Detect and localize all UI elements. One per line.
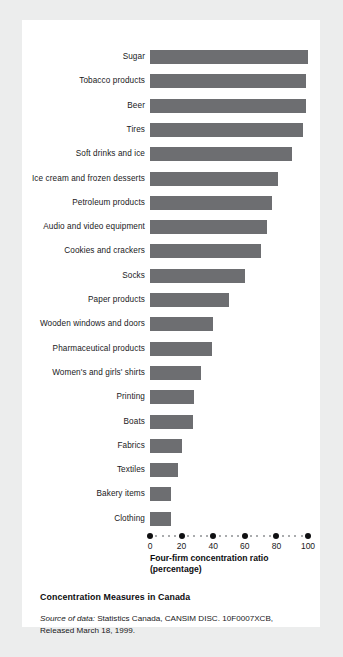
- figure-caption: Concentration Measures in Canada Source …: [40, 592, 308, 636]
- bar-row: Tobacco products: [22, 74, 320, 88]
- axis-minor-tick-dot: [294, 535, 296, 537]
- bar-category-label: Cookies and crackers: [15, 244, 145, 258]
- axis-minor-tick-dot: [225, 535, 227, 537]
- axis-minor-tick-dot: [187, 535, 189, 537]
- bar: [150, 512, 171, 526]
- bar-category-label: Soft drinks and ice: [15, 147, 145, 161]
- axis-major-tick-dot: [273, 533, 279, 539]
- bar: [150, 220, 267, 234]
- bar-category-label: Ice cream and frozen desserts: [15, 172, 145, 186]
- bar-row: Bakery items: [22, 487, 320, 501]
- bar: [150, 463, 178, 477]
- x-tick-label: 0: [148, 541, 153, 551]
- bar-row: Pharmaceutical products: [22, 342, 320, 356]
- bar-category-label: Tires: [15, 123, 145, 137]
- bar-track: [150, 415, 193, 429]
- bar-track: [150, 220, 267, 234]
- bar-category-label: Boats: [15, 415, 145, 429]
- bar-row: Women's and girls' shirts: [22, 366, 320, 380]
- bar: [150, 293, 229, 307]
- bar: [150, 244, 261, 258]
- bar: [150, 123, 303, 137]
- bar-row: Fabrics: [22, 439, 320, 453]
- bar-track: [150, 293, 229, 307]
- bar: [150, 366, 201, 380]
- bar-row: Socks: [22, 269, 320, 283]
- bar-row: Sugar: [22, 50, 320, 64]
- bar-track: [150, 123, 303, 137]
- bar: [150, 390, 194, 404]
- bar-track: [150, 439, 182, 453]
- x-axis-title-line-2: (percentage): [150, 564, 320, 575]
- bar-category-label: Printing: [15, 390, 145, 404]
- bar-track: [150, 196, 272, 210]
- bar-row: Boats: [22, 415, 320, 429]
- bar-category-label: Pharmaceutical products: [15, 342, 145, 356]
- bar-row: Paper products: [22, 293, 320, 307]
- x-tick-label: 60: [240, 541, 249, 551]
- x-axis-title-line-1: Four-firm concentration ratio: [150, 553, 320, 564]
- bar-track: [150, 390, 194, 404]
- axis-minor-tick-dot: [231, 535, 233, 537]
- bar-category-label: Paper products: [15, 293, 145, 307]
- bar-track: [150, 512, 171, 526]
- bar-track: [150, 50, 308, 64]
- axis-minor-tick-dot: [200, 535, 202, 537]
- bar-category-label: Tobacco products: [15, 74, 145, 88]
- bar: [150, 342, 212, 356]
- bar-track: [150, 172, 278, 186]
- axis-minor-tick-dot: [269, 535, 271, 537]
- x-tick-label: 80: [272, 541, 281, 551]
- bar-category-label: Petroleum products: [15, 196, 145, 210]
- bar: [150, 439, 182, 453]
- axis-minor-tick-dot: [237, 535, 239, 537]
- x-tick-label: 100: [301, 541, 315, 551]
- bar: [150, 147, 292, 161]
- bar: [150, 50, 308, 64]
- bar-category-label: Clothing: [15, 512, 145, 526]
- bar-row: Ice cream and frozen desserts: [22, 172, 320, 186]
- axis-minor-tick-dot: [288, 535, 290, 537]
- axis-minor-tick-dot: [301, 535, 303, 537]
- bar: [150, 269, 245, 283]
- bar-row: Cookies and crackers: [22, 244, 320, 258]
- bar-row: Soft drinks and ice: [22, 147, 320, 161]
- axis-minor-tick-dot: [282, 535, 284, 537]
- axis-minor-tick-dot: [174, 535, 176, 537]
- axis-minor-tick-dot: [206, 535, 208, 537]
- bar: [150, 415, 193, 429]
- bar-row: Textiles: [22, 463, 320, 477]
- bar-category-label: Wooden windows and doors: [15, 317, 145, 331]
- bar: [150, 196, 272, 210]
- bar-track: [150, 147, 292, 161]
- page-background: SugarTobacco productsBeerTiresSoft drink…: [0, 0, 343, 657]
- source-note: Source of data: Statistics Canada, CANSI…: [40, 613, 308, 636]
- bar: [150, 172, 278, 186]
- bar-row: Beer: [22, 99, 320, 113]
- source-label: Source of data:: [40, 614, 95, 623]
- bar-row: Wooden windows and doors: [22, 317, 320, 331]
- bar-track: [150, 244, 261, 258]
- bar-category-label: Audio and video equipment: [15, 220, 145, 234]
- axis-minor-tick-dot: [250, 535, 252, 537]
- bar-category-label: Socks: [15, 269, 145, 283]
- axis-major-tick-dot: [179, 533, 185, 539]
- bar-category-label: Women's and girls' shirts: [15, 366, 145, 380]
- axis-minor-tick-dot: [193, 535, 195, 537]
- bar-row: Tires: [22, 123, 320, 137]
- axis-minor-tick-dot: [162, 535, 164, 537]
- bar: [150, 487, 171, 501]
- bar-row: Petroleum products: [22, 196, 320, 210]
- x-tick-label: 20: [177, 541, 186, 551]
- bar-row: Clothing: [22, 512, 320, 526]
- x-axis-tick-labels: 020406080100: [150, 541, 325, 553]
- bar: [150, 74, 306, 88]
- bar-track: [150, 342, 212, 356]
- axis-major-tick-dot: [147, 533, 153, 539]
- bar: [150, 317, 213, 331]
- bar-category-label: Fabrics: [15, 439, 145, 453]
- axis-major-tick-dot: [242, 533, 248, 539]
- bar-track: [150, 366, 201, 380]
- bar-track: [150, 463, 178, 477]
- axis-minor-tick-dot: [155, 535, 157, 537]
